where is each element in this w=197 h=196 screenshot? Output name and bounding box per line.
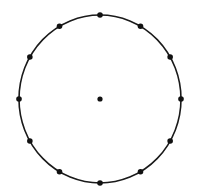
perimeter-point: [57, 23, 63, 29]
perimeter-point: [57, 169, 63, 175]
perimeter-point: [167, 138, 173, 144]
perimeter-point: [97, 12, 103, 18]
circle-diagram: [0, 0, 197, 196]
perimeter-point: [138, 169, 144, 175]
perimeter-point: [178, 96, 184, 102]
perimeter-point: [138, 23, 144, 29]
center-point: [97, 96, 102, 101]
perimeter-point: [16, 96, 22, 102]
perimeter-point: [27, 54, 33, 60]
perimeter-point: [97, 180, 103, 186]
perimeter-point: [27, 138, 33, 144]
perimeter-point: [167, 54, 173, 60]
